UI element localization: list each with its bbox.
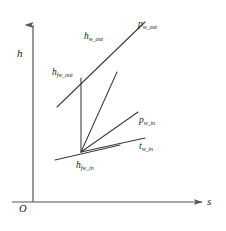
hs-diagram-figure: h s O pw_out hw_out hfw_out pw_in tw_in … [0, 0, 226, 231]
label-h-fw-out-sub: fw_out [57, 72, 73, 78]
label-h-fw-out: hfw_out [52, 62, 73, 78]
axes-group [12, 25, 202, 202]
label-p-w-in-sub: w_in [144, 120, 155, 126]
label-t-w-in: tw_in [139, 136, 153, 152]
diagram-canvas [0, 0, 226, 231]
label-h-fw-in: hfw_in [76, 155, 94, 171]
label-t-w-in-sub: w_in [142, 146, 153, 152]
process-lines-group [55, 22, 145, 160]
label-p-w-in: pw_in [139, 110, 155, 126]
label-p-w-out: pw_out [138, 14, 157, 30]
origin-label: O [19, 204, 27, 215]
label-h-fw-in-sub: fw_in [81, 165, 94, 171]
label-p-w-out-sub: w_out [143, 24, 157, 30]
label-h-w-out: hw_out [84, 26, 103, 42]
x-axis-label: s [207, 196, 211, 207]
y-axis-label: h [17, 48, 23, 59]
label-h-w-out-sub: w_out [89, 36, 103, 42]
